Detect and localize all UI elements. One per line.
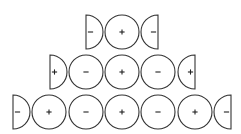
- half-ion-right: [178, 55, 195, 89]
- cation-circle: [105, 95, 139, 129]
- cation-circle: [105, 55, 139, 89]
- anion-circle: [69, 95, 103, 129]
- ion-stack-diagram: [0, 0, 241, 134]
- half-ion-left: [13, 95, 30, 129]
- ion-row-2: [50, 55, 195, 89]
- half-ion-right: [141, 15, 158, 49]
- half-ion-left: [50, 55, 67, 89]
- ion-row-1: [86, 15, 158, 49]
- half-ion-right: [214, 95, 231, 129]
- cation-circle: [178, 95, 212, 129]
- anion-circle: [69, 55, 103, 89]
- ion-row-3: [13, 95, 231, 129]
- anion-circle: [141, 55, 175, 89]
- cation-circle: [32, 95, 66, 129]
- half-ion-left: [86, 15, 103, 49]
- cation-circle: [105, 15, 139, 49]
- anion-circle: [141, 95, 175, 129]
- diagram-canvas: [0, 0, 241, 134]
